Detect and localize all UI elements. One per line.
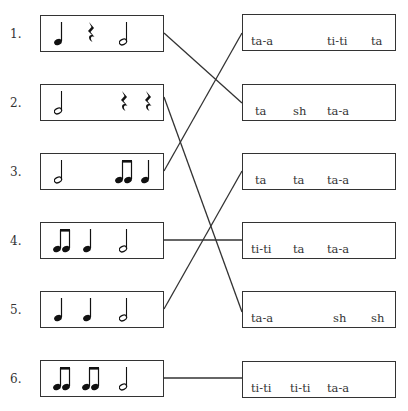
syllable: ta	[293, 173, 304, 187]
syllable: ta-a	[251, 34, 273, 48]
syllable-box-4[interactable]: ti-ti ta ta-a	[242, 222, 396, 259]
syllable: ta	[255, 173, 266, 187]
syllable: sh	[371, 311, 384, 325]
eighth-note-pair-icon	[53, 365, 73, 393]
syllable: ta	[293, 242, 304, 256]
row-number-5: 5.	[10, 303, 21, 317]
syllable: ta-a	[327, 242, 349, 256]
match-line-3-1	[164, 33, 242, 171]
eighth-note-pair-icon	[115, 158, 135, 186]
quarter-rest-icon	[119, 89, 131, 117]
rhythm-box-3[interactable]	[40, 153, 164, 190]
row-number-3: 3.	[10, 165, 21, 179]
row-number-1: 1.	[10, 27, 21, 41]
matching-lines	[0, 0, 408, 411]
quarter-note-icon	[83, 296, 95, 324]
row-number-2: 2.	[10, 96, 21, 110]
syllable: ta-a	[327, 381, 349, 395]
row-number-4: 4.	[10, 234, 21, 248]
syllable: ti-ti	[251, 242, 271, 256]
half-note-icon	[119, 20, 131, 48]
eighth-note-pair-icon	[82, 365, 102, 393]
rhythm-box-4[interactable]	[40, 222, 164, 259]
quarter-note-icon	[54, 296, 66, 324]
eighth-note-pair-icon	[53, 227, 73, 255]
row-number-6: 6.	[10, 372, 21, 386]
quarter-note-icon	[141, 158, 153, 186]
syllable: ti-ti	[290, 381, 310, 395]
syllable: ta-a	[327, 173, 349, 187]
syllable: ta	[255, 104, 266, 118]
rhythm-box-5[interactable]	[40, 291, 164, 328]
syllable-box-2[interactable]: ta sh ta-a	[242, 84, 396, 121]
quarter-note-icon	[83, 227, 95, 255]
half-note-icon	[54, 158, 66, 186]
half-note-icon	[119, 365, 131, 393]
syllable-box-3[interactable]: ta ta ta-a	[242, 153, 396, 190]
rhythm-box-1[interactable]	[40, 15, 164, 52]
quarter-note-icon	[54, 20, 66, 48]
half-note-icon	[54, 89, 66, 117]
syllable: ti-ti	[251, 381, 271, 395]
syllable: sh	[293, 104, 306, 118]
rhythm-box-6[interactable]	[40, 360, 164, 397]
syllable-box-6[interactable]: ti-ti ti-ti ta-a	[242, 361, 396, 398]
syllable-box-5[interactable]: ta-a sh sh	[242, 291, 396, 328]
rhythm-box-2[interactable]	[40, 84, 164, 121]
syllable: ta-a	[251, 311, 273, 325]
syllable: ta-a	[327, 104, 349, 118]
quarter-rest-icon	[86, 20, 98, 48]
quarter-rest-icon	[143, 89, 155, 117]
half-note-icon	[119, 227, 131, 255]
syllable: ta	[371, 34, 382, 48]
match-line-1-2	[164, 33, 242, 103]
half-note-icon	[119, 296, 131, 324]
syllable: ti-ti	[327, 34, 347, 48]
match-line-2-5	[164, 97, 242, 312]
syllable-box-1[interactable]: ta-a ti-ti ta	[242, 14, 396, 51]
syllable: sh	[333, 311, 346, 325]
